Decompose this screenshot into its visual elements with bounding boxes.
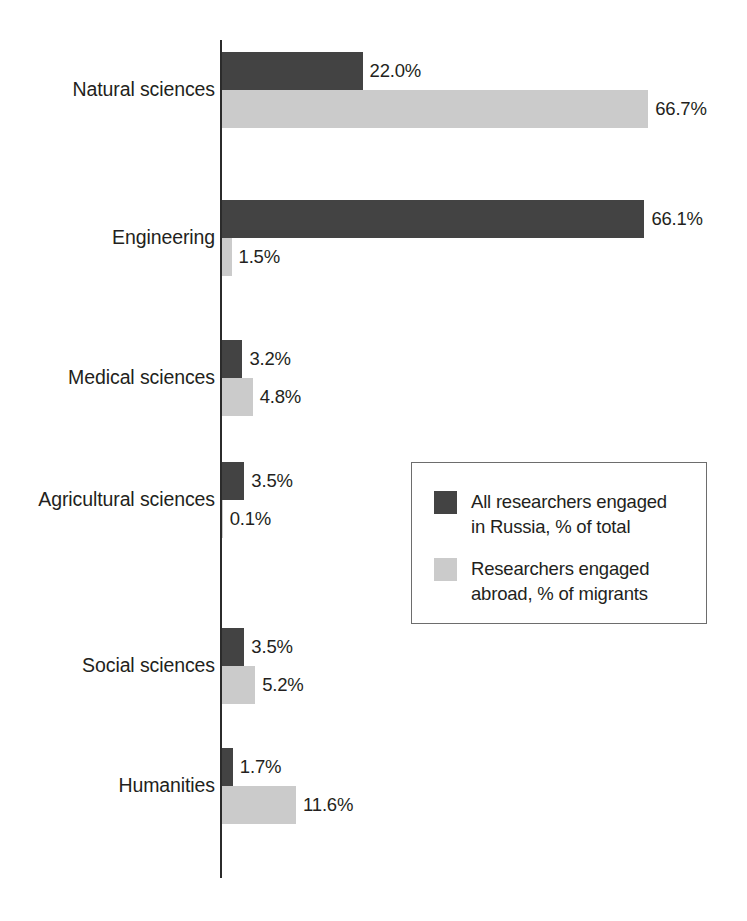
bar-russia[interactable]: [222, 52, 363, 90]
bar-value-label: 4.8%: [260, 386, 301, 408]
legend-entry-abroad[interactable]: Researchers engaged abroad, % of migrant…: [434, 556, 649, 606]
bar-value-label: 3.5%: [251, 470, 292, 492]
bar-abroad[interactable]: [222, 500, 223, 538]
bar-row: 4.8%: [222, 378, 301, 416]
bar-value-label: 1.7%: [240, 756, 281, 778]
bar-abroad[interactable]: [222, 378, 253, 416]
bar-group: Natural sciences22.0%66.7%: [0, 52, 747, 128]
legend-label: Researchers engaged abroad, % of migrant…: [471, 556, 649, 606]
bar-row: 3.5%: [222, 628, 293, 666]
bar-row: 11.6%: [222, 786, 353, 824]
legend-label: All researchers engaged in Russia, % of …: [471, 489, 667, 539]
bar-abroad[interactable]: [222, 786, 296, 824]
category-label-social-sciences: Social sciences: [0, 654, 215, 677]
bar-russia[interactable]: [222, 748, 233, 786]
chart-figure: Natural sciences22.0%66.7%Engineering66.…: [0, 0, 747, 921]
bar-russia[interactable]: [222, 200, 644, 238]
bar-russia[interactable]: [222, 628, 244, 666]
category-label-medical-sciences: Medical sciences: [0, 366, 215, 389]
bar-value-label: 3.2%: [249, 348, 290, 370]
category-label-natural-sciences: Natural sciences: [0, 78, 215, 101]
figure-caption: [58, 899, 698, 919]
bar-value-label: 11.6%: [303, 794, 353, 816]
bar-abroad[interactable]: [222, 238, 232, 276]
bar-row: 66.1%: [222, 200, 703, 238]
bar-value-label: 66.7%: [655, 98, 706, 120]
bar-group: Social sciences3.5%5.2%: [0, 628, 747, 704]
bar-group: Engineering66.1%1.5%: [0, 200, 747, 276]
bar-value-label: 3.5%: [251, 636, 292, 658]
bar-value-label: 0.1%: [230, 508, 271, 530]
bar-russia[interactable]: [222, 340, 242, 378]
bar-group: Humanities1.7%11.6%: [0, 748, 747, 824]
bar-group: Medical sciences3.2%4.8%: [0, 340, 747, 416]
legend-swatch-icon: [434, 491, 457, 514]
bar-row: 66.7%: [222, 90, 707, 128]
bar-abroad[interactable]: [222, 90, 648, 128]
legend-entry-russia[interactable]: All researchers engaged in Russia, % of …: [434, 489, 667, 539]
bar-row: 1.5%: [222, 238, 280, 276]
bar-abroad[interactable]: [222, 666, 255, 704]
category-label-agricultural-sciences: Agricultural sciences: [0, 488, 215, 511]
bar-row: 3.2%: [222, 340, 291, 378]
bar-value-label: 5.2%: [262, 674, 303, 696]
bar-row: 1.7%: [222, 748, 281, 786]
bar-chart-plot-area: Natural sciences22.0%66.7%Engineering66.…: [0, 0, 747, 885]
category-label-engineering: Engineering: [0, 226, 215, 249]
bar-russia[interactable]: [222, 462, 244, 500]
bar-value-label: 22.0%: [370, 60, 421, 82]
bar-value-label: 1.5%: [239, 246, 280, 268]
category-label-humanities: Humanities: [0, 774, 215, 797]
bar-row: 22.0%: [222, 52, 421, 90]
legend-swatch-icon: [434, 558, 457, 581]
chart-legend: All researchers engaged in Russia, % of …: [411, 462, 707, 624]
bar-row: 5.2%: [222, 666, 304, 704]
bar-row: 3.5%: [222, 462, 293, 500]
bar-row: 0.1%: [222, 500, 271, 538]
bar-value-label: 66.1%: [651, 208, 702, 230]
